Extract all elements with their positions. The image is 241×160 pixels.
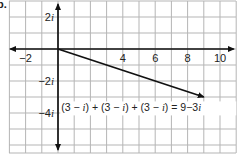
x-tick-label: 10 bbox=[214, 52, 226, 64]
vector-arrow bbox=[58, 49, 204, 97]
equation-annotation: (3 − i) + (3 − i) + (3 − i) = 9−3i bbox=[60, 101, 236, 115]
problem-label: b. bbox=[0, 0, 7, 10]
y-tick-label: −2i bbox=[38, 75, 54, 87]
annotation-text: (3 − i) + (3 − i) + (3 − i) = 9−3i bbox=[61, 101, 201, 113]
x-tick-label: 4 bbox=[120, 52, 126, 64]
y-tick-label: −4i bbox=[38, 107, 54, 119]
y-tick-label: 2i bbox=[45, 11, 54, 23]
x-tick-label: 6 bbox=[152, 52, 158, 64]
x-tick-label: 8 bbox=[185, 52, 191, 64]
x-tick-label: −2 bbox=[19, 52, 32, 64]
complex-plane-chart: −2468102i−2i−4i (3 − i) + (3 − i) + (3 −… bbox=[0, 0, 241, 160]
vector-series bbox=[58, 49, 204, 97]
